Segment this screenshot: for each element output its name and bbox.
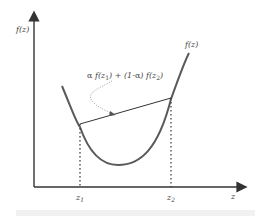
z2-label: z2 — [166, 193, 175, 203]
footer-band — [16, 210, 255, 216]
chord-label: α f(z1) + (1-α) f(z2) — [87, 71, 163, 81]
convex-curve — [62, 53, 189, 165]
pointer-curve — [91, 81, 113, 114]
curve-label: f(z) — [184, 40, 198, 49]
z1-label: z1 — [75, 193, 84, 203]
chord-line — [80, 98, 171, 124]
y-axis-label: f(z) — [15, 25, 29, 34]
x-axis-label: z — [230, 192, 236, 201]
convexity-diagram: f(z) f(z) α f(z1) + (1-α) f(z2) z1 z2 z — [0, 0, 255, 216]
